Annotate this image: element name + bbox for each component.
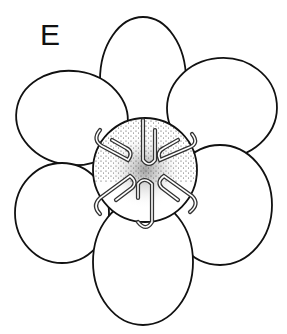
panel-label: E [40, 20, 60, 50]
lobed-structure-figure: E [0, 0, 287, 334]
